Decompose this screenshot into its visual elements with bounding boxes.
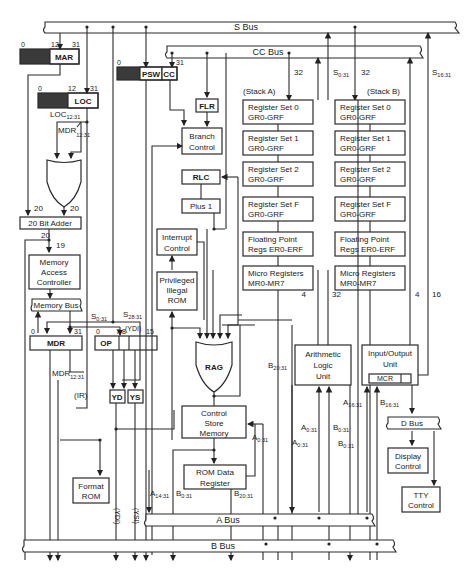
display-line-2: Control — [395, 462, 421, 471]
flr-register: FLR — [196, 99, 218, 112]
mar-bit-12: 12 — [51, 41, 59, 48]
register-block-name: Register Set 1 — [248, 134, 299, 143]
ir-s031-label: S0:31 — [91, 312, 107, 322]
cc-label: CC — [163, 70, 175, 79]
register-block-name: Register Set 0 — [248, 103, 299, 112]
loc-bit-12: 12 — [68, 85, 76, 92]
loc-sub-label: LOC12:31 — [50, 110, 80, 120]
register-block-range: Regs ER0-ERF — [340, 245, 395, 254]
b031-label-1: B0:31 — [333, 423, 349, 433]
register-block: Register Set FGR0-GRF — [243, 197, 313, 221]
psw-bit-0: 0 — [117, 59, 121, 66]
priv-rom-line-3: ROM — [168, 296, 187, 305]
tty-line-1: TTY — [413, 491, 429, 500]
psw-bit-31: 31 — [176, 59, 184, 66]
loc-label: LOC — [75, 97, 92, 106]
iou-width-16: 16 — [432, 290, 441, 299]
ir-bit-0: 0 — [96, 328, 100, 335]
a1631-label: A16:31 — [343, 398, 362, 408]
mar-bit-31: 31 — [72, 41, 80, 48]
register-block-name: Micro Registers — [248, 269, 304, 278]
alu-line-3: Unit — [316, 372, 331, 381]
a-bus-label: A Bus — [216, 515, 240, 525]
rlc-register: RLC — [182, 170, 220, 184]
mdr-bit-0: 0 — [31, 328, 35, 335]
register-block-name: Floating Point — [248, 235, 298, 244]
register-block-name: Register Set 2 — [248, 165, 299, 174]
rom-data-line-1: ROM Data — [196, 468, 234, 477]
format-rom: Format ROM — [73, 478, 109, 503]
loc-bit-31: 31 — [90, 85, 98, 92]
b2031-rom-label: B20:31 — [234, 489, 253, 499]
priv-rom-line-1: Privileged — [159, 276, 194, 285]
register-block-range: MR0-MR7 — [248, 279, 285, 288]
plus-one-label: Plus 1 — [190, 202, 213, 211]
mac-line-3: Controller — [37, 278, 72, 287]
ysi-vertical-label: (YSI) — [132, 508, 140, 524]
input-output-unit: Input/Output Unit MCR — [362, 345, 418, 385]
branch-line-2: Control — [189, 143, 215, 152]
width-20-right: 20 — [70, 204, 79, 213]
branch-line-1: Branch — [189, 132, 214, 141]
loc-bit-0: 0 — [38, 85, 42, 92]
b031-rom-label: B0:31 — [176, 489, 192, 499]
s-bus-label: S Bus — [234, 22, 259, 32]
format-rom-line-1: Format — [78, 482, 104, 491]
20-bit-adder: 20 Bit Adder — [20, 217, 81, 229]
alu-line-2: Logic — [313, 361, 332, 370]
register-block-name: Micro Registers — [340, 269, 396, 278]
ys-register: YS — [128, 390, 143, 403]
mar-bit-0: 0 — [21, 41, 25, 48]
loc-register: LOC 0 12 31 LOC12:31 — [38, 85, 98, 120]
register-block-name: Register Set 2 — [340, 165, 391, 174]
memory-bus-label: Memory Bus — [34, 301, 79, 310]
s2831-label: S28:31 — [123, 310, 142, 320]
op-label: OP — [100, 339, 112, 348]
mar-label: MAR — [55, 53, 73, 62]
register-block: Register Set 1GR0-GRF — [335, 131, 405, 155]
psw-register: PSW CC 0 31 — [117, 59, 184, 80]
d-bus-label: D Bus — [401, 419, 423, 428]
register-block: Register Set 0GR0-GRF — [243, 100, 313, 124]
mac-line-2: Access — [41, 268, 67, 277]
register-block: Register Set 1GR0-GRF — [243, 131, 313, 155]
rom-data-line-2: Register — [200, 479, 230, 488]
tty-control: TTY Control — [402, 487, 440, 512]
iou-width-4: 4 — [415, 290, 420, 299]
privileged-illegal-rom: Privileged Illegal ROM — [157, 272, 197, 310]
ydi-vertical-label: (YDI) — [113, 508, 121, 524]
register-block: Floating PointRegs ER0-ERF — [243, 232, 313, 256]
width-20-left: 20 — [34, 204, 43, 213]
mdr-bit-31: 31 — [74, 328, 82, 335]
mar-register: MAR 0 12 31 — [20, 41, 80, 64]
mdr-label: MDR — [47, 339, 65, 348]
interrupt-control: Interrupt Control — [157, 229, 197, 255]
stack-a-label: (Stack A) — [243, 87, 276, 96]
memory-access-controller: Memory Access Controller — [29, 255, 80, 289]
width-32-a: 32 — [294, 68, 303, 77]
register-block-name: Register Set F — [340, 200, 391, 209]
register-block-name: Register Set F — [248, 200, 299, 209]
stack-b: Register Set 0GR0-GRFRegister Set 1GR0-G… — [335, 100, 405, 560]
s-bus: S Bus — [44, 22, 460, 33]
s031-label: S0:31 — [333, 68, 349, 78]
psw-label: PSW — [142, 70, 161, 79]
cc-bus-label: CC Bus — [252, 47, 284, 57]
priv-rom-line-2: Illegal — [167, 286, 188, 295]
ir-bit-15: 15 — [146, 328, 154, 335]
b031-label-2: B0:31 — [338, 439, 354, 449]
register-block-range: Regs ER0-ERF — [248, 245, 303, 254]
s1631-label: S16:31 — [432, 68, 451, 78]
mdr-in-label: MDR12:31 — [58, 126, 90, 138]
adder-label: 20 Bit Adder — [28, 219, 72, 228]
register-block-range: GR0-GRF — [248, 175, 284, 184]
register-block-name: Register Set 1 — [340, 134, 391, 143]
a-bus: A Bus — [145, 514, 376, 526]
display-line-1: Display — [395, 452, 421, 461]
address-mux-gate — [47, 160, 81, 207]
width-32-b: 32 — [361, 68, 370, 77]
display-control: Display Control — [388, 448, 428, 473]
mdr-out-label: MDR12:31 — [52, 369, 84, 380]
register-block: Register Set 2GR0-GRF — [335, 162, 405, 186]
register-block: Micro RegistersMR0-MR7 — [335, 266, 405, 290]
